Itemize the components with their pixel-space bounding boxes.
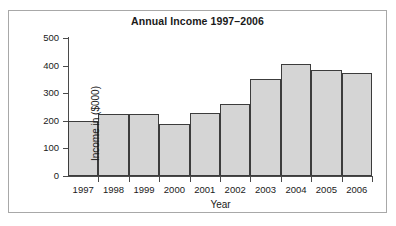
bar-1999: [129, 114, 159, 176]
x-tick-mark: [281, 177, 282, 182]
bar-2000: [159, 124, 189, 176]
y-axis-label: Income in ($000): [90, 54, 101, 194]
x-tick-mark: [311, 177, 312, 182]
x-tick-mark: [129, 177, 130, 182]
bar-1998: [98, 114, 128, 176]
plot-area: Income in ($000): [68, 38, 372, 176]
x-tick-mark: [250, 177, 251, 182]
x-tick-label: 2006: [337, 185, 377, 195]
y-tick-label: 300: [19, 88, 59, 98]
y-tick-mark: [63, 176, 68, 177]
x-tick-mark: [372, 177, 373, 182]
y-tick-label: 200: [19, 116, 59, 126]
chart-title: Annual Income 1997–2006: [8, 15, 387, 27]
y-tick-label: 400: [19, 61, 59, 71]
chart-figure: Annual Income 1997–2006 0100200300400500…: [0, 0, 396, 226]
bar-2006: [342, 73, 372, 176]
x-tick-mark: [342, 177, 343, 182]
x-tick-mark: [159, 177, 160, 182]
bar-2004: [281, 64, 311, 176]
bar-2001: [190, 113, 220, 176]
x-tick-mark: [220, 177, 221, 182]
bar-2002: [220, 104, 250, 176]
x-tick-mark: [190, 177, 191, 182]
bar-2003: [250, 79, 280, 176]
x-axis-label: Year: [68, 199, 373, 210]
y-tick-label: 100: [19, 143, 59, 153]
bar-2005: [311, 70, 341, 176]
y-tick-label: 500: [19, 33, 59, 43]
y-tick-label: 0: [19, 171, 59, 181]
